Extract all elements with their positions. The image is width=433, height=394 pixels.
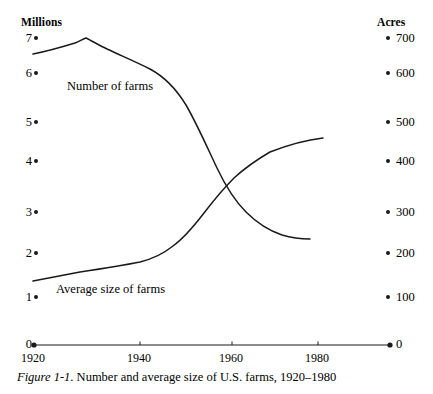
series-curve-number-of-farms	[33, 38, 310, 239]
figure-caption-text: Number and average size of U.S. farms, 1…	[77, 370, 337, 384]
figure-caption-number: Figure 1-1	[17, 370, 70, 384]
figure-container: Millions Acres 7 6 5 4 3 2 1 0 700 600 5…	[0, 0, 433, 394]
left-axis-tick-dots	[31, 36, 38, 348]
chart-plot-area	[0, 0, 433, 394]
figure-caption: Figure 1-1. Number and average size of U…	[17, 370, 336, 385]
series-curve-average-size	[33, 138, 323, 281]
right-axis-tick-dots	[386, 36, 393, 348]
